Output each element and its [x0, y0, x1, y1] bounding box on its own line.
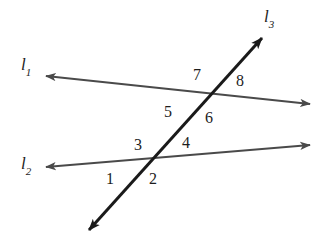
line-label-l1-subscript: 1: [26, 66, 32, 78]
line-label-l2: l2: [21, 155, 31, 175]
angle-label-5: 5: [164, 104, 172, 120]
angle-label-4: 4: [182, 135, 190, 151]
angle-label-8: 8: [236, 73, 244, 89]
angle-label-3: 3: [134, 137, 142, 153]
line-label-l3-subscript: 3: [269, 18, 275, 30]
angle-label-1: 1: [106, 171, 114, 187]
angle-label-7: 7: [193, 67, 201, 83]
line-label-l3: l3: [264, 8, 274, 28]
geometry-diagram: l1 l2 l3 1 2 3 4 5 6 7 8: [0, 0, 320, 245]
geometry-canvas: [0, 0, 320, 245]
line-label-l1: l1: [21, 56, 31, 76]
angle-label-6: 6: [205, 110, 213, 126]
line-l3-transversal: [89, 38, 262, 230]
line-l2: [46, 145, 310, 167]
line-l1: [46, 76, 310, 104]
angle-label-2: 2: [149, 171, 157, 187]
line-label-l2-subscript: 2: [26, 165, 32, 177]
